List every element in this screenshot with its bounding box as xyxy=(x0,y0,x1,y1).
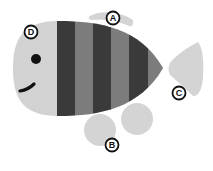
label-c: C xyxy=(173,87,186,100)
stripe-mid-1 xyxy=(75,0,93,171)
svg-text:B: B xyxy=(109,140,116,150)
svg-text:D: D xyxy=(28,27,35,37)
stripe-dark-3 xyxy=(129,0,148,171)
label-d: D xyxy=(25,26,38,39)
svg-text:C: C xyxy=(176,88,183,98)
label-a: A xyxy=(107,12,120,25)
svg-text:A: A xyxy=(110,13,117,23)
stripe-dark-1 xyxy=(57,0,75,171)
fish-diagram: A B C D xyxy=(0,0,213,171)
pelvic-fin-back xyxy=(121,103,153,135)
label-b: B xyxy=(106,139,119,152)
stripe-mid-3 xyxy=(148,0,168,171)
eye-icon xyxy=(31,54,41,64)
